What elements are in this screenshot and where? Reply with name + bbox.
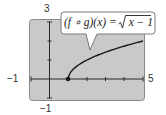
function-label: (f ∘ g)(x) = x − 1 [64,15,153,29]
y-min-label: −1 [40,104,51,114]
start-point-dot [66,77,71,82]
y-max-label: 3 [44,4,50,14]
x-min-label: −1 [7,74,18,84]
function-label-lhs: (f ∘ g)(x) = [64,16,120,28]
x-max-label: 5 [148,74,154,84]
function-label-radicand: x − 1 [129,16,153,28]
